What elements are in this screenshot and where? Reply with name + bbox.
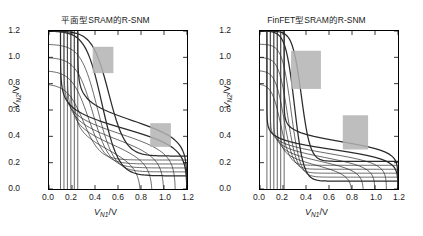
ytick-finfet-2: 0.4	[207, 131, 231, 140]
curve-group	[260, 31, 398, 189]
x-axis-label-finfet-unit: /V	[319, 207, 328, 217]
plot-area-finfet	[259, 30, 399, 190]
lower-right-snm	[150, 123, 171, 147]
plot-svg-finfet	[260, 31, 398, 189]
vtc-curve	[67, 31, 163, 189]
x-axis-label-finfet-sub: N1	[311, 211, 319, 218]
ytick-planar-0: 0.0	[0, 184, 20, 193]
y-axis-label-finfet: VN2/V	[222, 67, 232, 127]
xtick-finfet-6: 1.2	[387, 193, 411, 202]
figure-root: 平面型SRAM的R-SNM 1.2 1.0 0.8 0.6 0.4 0.2 0.…	[0, 0, 423, 236]
vtc-curve	[49, 58, 187, 168]
ytick-finfet-5: 1.0	[207, 52, 231, 61]
y-axis-label-planar: VN2/V	[11, 67, 21, 127]
y-axis-label-finfet-sub: N2	[226, 94, 233, 102]
xtick-finfet-2: 0.4	[294, 193, 318, 202]
curve-group	[49, 31, 187, 189]
xtick-planar-6: 1.2	[176, 193, 200, 202]
xtick-planar-1: 0.2	[59, 193, 83, 202]
xtick-finfet-0: 0.0	[247, 193, 271, 202]
vtc-curve	[49, 85, 187, 160]
ytick-finfet-1: 0.2	[207, 158, 231, 167]
y-axis-label-planar-sub: N2	[15, 94, 22, 102]
ytick-planar-5: 1.0	[0, 52, 20, 61]
upper-left-snm	[93, 47, 114, 73]
panel-title-finfet: FinFET型SRAM的R-SNM	[211, 13, 422, 25]
xtick-finfet-4: 0.8	[340, 193, 364, 202]
xtick-planar-5: 1.0	[153, 193, 177, 202]
ytick-finfet-6: 1.2	[207, 26, 231, 35]
vtc-curve	[49, 71, 187, 164]
x-axis-label-planar-unit: /V	[108, 207, 117, 217]
panel-title-planar: 平面型SRAM的R-SNM	[0, 13, 211, 25]
y-axis-label-finfet-unit: /V	[222, 86, 232, 95]
ytick-planar-2: 0.4	[0, 131, 20, 140]
ytick-finfet-0: 0.0	[207, 184, 231, 193]
y-axis-label-planar-unit: /V	[11, 86, 21, 95]
x-axis-label-finfet: VN1/V	[211, 207, 422, 217]
xtick-planar-3: 0.6	[106, 193, 130, 202]
x-axis-label-planar-sub: N1	[100, 211, 108, 218]
x-axis-label-planar: VN1/V	[0, 207, 211, 217]
lower-right-snm	[343, 115, 368, 149]
ytick-planar-1: 0.2	[0, 158, 20, 167]
xtick-planar-4: 0.8	[129, 193, 153, 202]
plot-area-planar	[48, 30, 188, 190]
upper-left-snm	[291, 51, 321, 89]
panel-finfet: FinFET型SRAM的R-SNM 1.2 1.0 0.8 0.6 0.4 0.…	[211, 0, 422, 236]
xtick-finfet-1: 0.2	[270, 193, 294, 202]
xtick-finfet-5: 1.0	[364, 193, 388, 202]
tick-group	[49, 31, 187, 189]
ytick-planar-6: 1.2	[0, 26, 20, 35]
xtick-finfet-3: 0.6	[317, 193, 341, 202]
y-axis-label-finfet-main: V	[222, 102, 232, 108]
panel-planar: 平面型SRAM的R-SNM 1.2 1.0 0.8 0.6 0.4 0.2 0.…	[0, 0, 211, 236]
plot-svg-planar	[49, 31, 187, 189]
y-axis-label-planar-main: V	[11, 102, 21, 108]
xtick-planar-0: 0.0	[36, 193, 60, 202]
xtick-planar-2: 0.4	[83, 193, 107, 202]
